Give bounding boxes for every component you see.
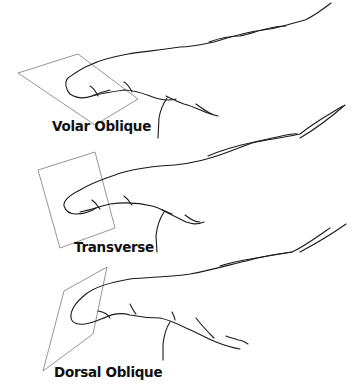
volar-oblique-plane	[18, 54, 138, 125]
volar-oblique-hand-outline	[66, 3, 331, 98]
illustration	[0, 0, 357, 388]
volar-oblique-wrist-line	[158, 98, 167, 138]
dorsal-oblique-nail-contour	[220, 252, 292, 266]
dorsal-oblique-knuckle-1	[98, 311, 110, 318]
dorsal-oblique-wrist-line	[163, 322, 170, 360]
volar-oblique-label: Volar Oblique	[52, 118, 151, 134]
transverse-label: Transverse	[74, 239, 154, 255]
dorsal-oblique-signature	[226, 336, 248, 344]
transverse-forearm	[300, 224, 346, 252]
dorsal-oblique-thumb	[196, 318, 214, 338]
transverse-wrist-line	[156, 212, 164, 252]
transverse-thumb	[185, 215, 200, 222]
dorsal-oblique-knuckle-3	[172, 312, 175, 320]
dorsal-oblique-knuckle-2	[130, 304, 136, 314]
dorsal-oblique-label: Dorsal Oblique	[54, 364, 162, 380]
transverse-knuckle-2	[124, 196, 132, 205]
dorsal-oblique-plane	[43, 267, 107, 371]
dorsal-oblique-finger-crease	[104, 314, 240, 349]
volar-oblique-forearm	[300, 105, 345, 138]
transverse-plane	[38, 152, 115, 248]
transverse-finger-crease	[80, 203, 172, 214]
